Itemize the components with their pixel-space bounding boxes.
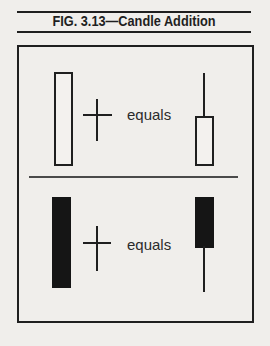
white-candle-body — [195, 116, 214, 166]
upper-shadow-line — [203, 73, 205, 118]
plus-vertical-stroke — [96, 226, 98, 271]
plus-vertical-stroke — [96, 99, 98, 141]
black-long-candle-body — [52, 197, 71, 288]
plus-horizontal-stroke — [83, 242, 111, 244]
panel-divider — [29, 176, 238, 178]
equals-label-bottom: equals — [127, 236, 171, 253]
white-long-candle-body — [54, 72, 73, 166]
plus-icon — [83, 226, 111, 271]
equals-label-top: equals — [127, 106, 171, 123]
header-bottom-rule — [17, 31, 251, 33]
plus-horizontal-stroke — [83, 114, 112, 116]
figure-page: FIG. 3.13—Candle Addition equals equals — [0, 0, 270, 346]
plus-icon — [83, 99, 112, 141]
lower-shadow-line — [203, 246, 205, 292]
black-candle-body — [195, 197, 214, 248]
result-candle-black-lower-shadow — [195, 197, 214, 292]
figure-title: FIG. 3.13—Candle Addition — [35, 12, 234, 29]
result-candle-white-upper-shadow — [195, 73, 214, 166]
